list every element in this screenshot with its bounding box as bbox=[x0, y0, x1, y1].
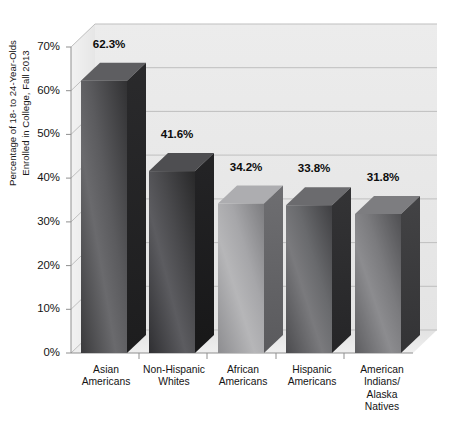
y-tick-label-40: 40% bbox=[18, 172, 60, 183]
y-tick-label-20: 20% bbox=[18, 260, 60, 271]
bar-side-face bbox=[332, 187, 351, 353]
x-axis-ticks bbox=[139, 353, 344, 359]
y-tick-label-0: 0% bbox=[18, 347, 60, 358]
bar-side-face bbox=[264, 186, 283, 354]
bar-front-face bbox=[149, 171, 195, 353]
y-axis-title-line-1: Percentage of 18- to 24-Year-Olds bbox=[7, 40, 20, 186]
bar-chart: Percentage of 18- to 24-Year-Olds Enroll… bbox=[0, 0, 455, 434]
bar-side-face bbox=[401, 196, 420, 353]
bar-non-hispanic-whites bbox=[149, 153, 214, 353]
bar-value-african-americans: 34.2% bbox=[208, 160, 284, 173]
bar-side-face bbox=[195, 153, 214, 353]
y-axis-title-line-2: Enrolled in College, Fall 2013 bbox=[20, 50, 33, 175]
bar-asian-americans bbox=[81, 63, 146, 353]
y-axis-ticks bbox=[66, 47, 71, 353]
x-category-label-hispanic-americans: Hispanic Americans bbox=[275, 364, 349, 389]
bar-front-face bbox=[355, 214, 401, 353]
bar-value-non-hispanic-whites: 41.6% bbox=[139, 127, 215, 140]
bar-hispanic-americans bbox=[286, 187, 351, 353]
bar-value-hispanic-americans: 33.8% bbox=[276, 161, 352, 174]
bar-american-indians-alaska-natives bbox=[355, 196, 420, 353]
y-tick-label-10: 10% bbox=[18, 303, 60, 314]
y-tick-label-70: 70% bbox=[18, 41, 60, 52]
bar-side-face bbox=[127, 63, 146, 353]
x-category-label-american-indians-alaska-natives: American Indians/ Alaska Natives bbox=[345, 364, 419, 414]
bar-african-americans bbox=[218, 186, 283, 354]
y-axis-title: Percentage of 18- to 24-Year-Olds Enroll… bbox=[3, 3, 37, 223]
x-category-label-african-americans: African Americans bbox=[206, 364, 280, 389]
bar-front-face bbox=[218, 204, 264, 354]
bar-front-face bbox=[286, 205, 332, 353]
bar-value-american-indians-alaska-natives: 31.8% bbox=[345, 170, 421, 183]
y-tick-label-60: 60% bbox=[18, 85, 60, 96]
bar-value-asian-americans: 62.3% bbox=[71, 37, 147, 50]
bar-front-face bbox=[81, 81, 127, 353]
x-category-label-non-hispanic-whites: Non-Hispanic Whites bbox=[136, 364, 212, 389]
y-tick-label-50: 50% bbox=[18, 128, 60, 139]
x-category-label-asian-americans: Asian Americans bbox=[70, 364, 142, 389]
y-tick-label-30: 30% bbox=[18, 216, 60, 227]
